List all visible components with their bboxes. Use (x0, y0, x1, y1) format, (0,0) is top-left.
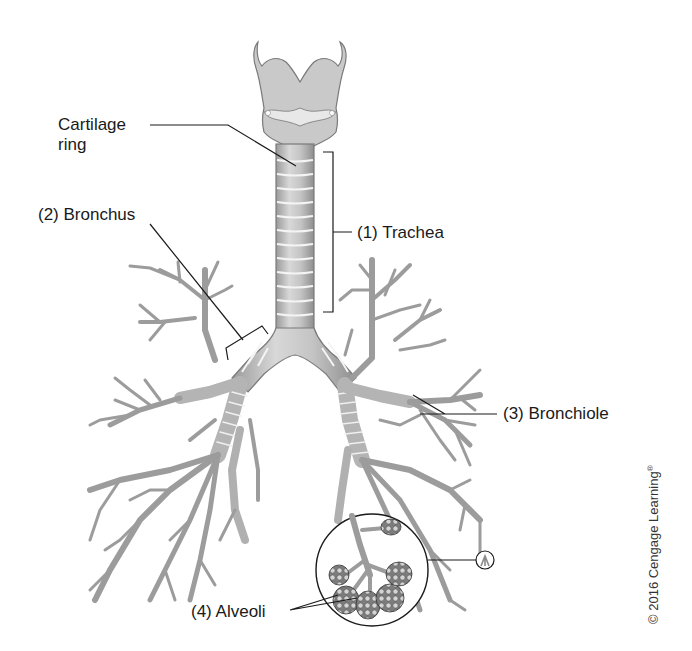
larynx (254, 42, 346, 146)
bronchus-label: (2) Bronchus (38, 205, 135, 225)
cartilage-ring-label-line1: Cartilage (58, 115, 126, 135)
trachea-bracket (323, 152, 352, 312)
copyright-notice: © 2016 Cengage Learning® (646, 465, 661, 624)
left-bronchial-tree (90, 262, 258, 600)
trachea-tube (276, 144, 314, 330)
cartilage-ring-label: Cartilage ring (58, 115, 126, 155)
alveoli-magnified-view (316, 514, 428, 626)
bronchiole-label: (3) Bronchiole (503, 404, 609, 424)
respiratory-diagram (0, 0, 692, 651)
alveoli-label: (4) Alveoli (191, 602, 266, 622)
cartilage-ring-label-line2: ring (58, 135, 126, 155)
registered-mark: ® (646, 465, 655, 471)
trachea-label: (1) Trachea (357, 223, 444, 243)
main-bronchi (232, 328, 356, 392)
copyright-text: © 2016 Cengage Learning (646, 471, 661, 624)
